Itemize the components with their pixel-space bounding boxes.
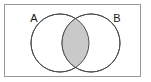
set-b-label: B	[113, 12, 120, 24]
venn-diagram-figure: A B	[0, 0, 151, 82]
set-a-label: A	[30, 12, 38, 24]
venn-diagram-canvas: A B	[0, 0, 151, 82]
